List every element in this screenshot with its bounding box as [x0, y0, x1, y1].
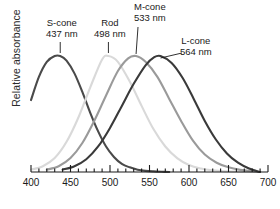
leader-line-l-cone: [161, 53, 182, 58]
x-tick-label: 600: [169, 177, 209, 188]
curve-rod: [31, 56, 260, 172]
callout-wavelength: 437 nm: [46, 29, 78, 40]
callout-name: S-cone: [46, 18, 78, 29]
callout-name: M-cone: [134, 2, 166, 13]
callout-m-cone: M-cone533 nm: [134, 2, 166, 23]
x-tick-label: 450: [51, 177, 91, 188]
callout-s-cone: S-cone437 nm: [46, 18, 78, 39]
x-tick-label: 400: [11, 177, 51, 188]
callout-wavelength: 498 nm: [94, 29, 126, 40]
callout-name: L-cone: [180, 36, 212, 47]
leader-line-m-cone: [136, 27, 138, 54]
callout-wavelength: 564 nm: [180, 47, 212, 58]
curve-group: [31, 55, 260, 172]
callout-l-cone: L-cone564 nm: [180, 36, 212, 57]
curve-s-cone: [31, 55, 169, 172]
callout-rod: Rod498 nm: [94, 18, 126, 39]
callout-name: Rod: [94, 18, 126, 29]
curve-l-cone: [63, 56, 261, 172]
x-tick-label: 650: [209, 177, 249, 188]
x-tick-label: 500: [90, 177, 130, 188]
photoreceptor-absorbance-chart: Relative absorbance 40045050055060065070…: [0, 0, 280, 209]
x-tick-label: 700: [248, 177, 280, 188]
x-tick-label: 550: [130, 177, 170, 188]
callout-wavelength: 533 nm: [134, 13, 166, 24]
